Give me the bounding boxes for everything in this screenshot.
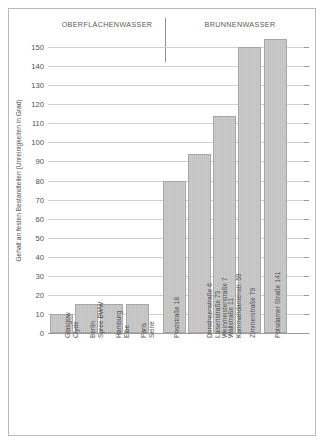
right-tick-120 — [304, 104, 309, 105]
right-tick-80 — [304, 181, 309, 182]
right-tick-40 — [304, 257, 309, 258]
y-tick-20: 20 — [36, 290, 44, 299]
right-tick-30 — [304, 276, 309, 277]
y-tick-0: 0 — [40, 329, 44, 338]
x-label-line: Hamburg — [115, 311, 123, 338]
right-tick-70 — [304, 200, 309, 201]
right-tick-110 — [304, 123, 309, 124]
right-tick-50 — [304, 238, 309, 239]
x-label-line: Spree BWW — [97, 302, 105, 338]
right-tick-130 — [304, 85, 309, 86]
chart-figure: OBERFLÄCHENWASSER BRUNNENWASSER Gehalt a… — [0, 0, 326, 446]
y-axis-title: Gehalt an festen Bestandteilen (Unreinig… — [14, 28, 24, 333]
x-label-line: Paris — [140, 321, 148, 338]
x-label-line: Luisenstraße 73 — [213, 277, 221, 338]
right-tick-150 — [304, 47, 309, 48]
y-tick-150: 150 — [31, 43, 44, 52]
x-label-line: Kommandantenstr. 59 — [235, 273, 243, 338]
x-label-poststrasse-18: Poststraße 18 — [173, 297, 181, 338]
y-tick-120: 120 — [31, 100, 44, 109]
right-tick-60 — [304, 219, 309, 220]
x-label-line: Glasgow — [64, 312, 72, 338]
y-tick-100: 100 — [31, 138, 44, 147]
x-label-potsdamer-strasse-141: Potsdamer Straße 141 — [274, 272, 282, 338]
y-tick-10: 10 — [36, 309, 44, 318]
y-tick-90: 90 — [36, 157, 44, 166]
y-tick-40: 40 — [36, 252, 44, 261]
right-tick-0 — [304, 333, 309, 334]
x-label-zimmerstrasse-79: Zimmerstraße 79 — [249, 288, 257, 338]
x-label-line: Potsdamer Straße 141 — [274, 272, 282, 338]
x-label-line: Poststraße 18 — [173, 297, 181, 338]
x-label-paris-seine: ParisSeine — [140, 321, 155, 338]
x-label-line: Elbe — [122, 311, 130, 338]
x-label-glasgow-clyde: GlasgowClyde — [64, 312, 79, 338]
right-tick-100 — [304, 142, 309, 143]
right-tick-20 — [304, 295, 309, 296]
x-label-line: Clyde — [72, 312, 80, 338]
y-tick-50: 50 — [36, 233, 44, 242]
right-tick-140 — [304, 66, 309, 67]
x-label-line: Dorotheenstraße 6 — [206, 277, 214, 338]
plot-area: 0102030405060708090100110120130140150 — [48, 28, 304, 333]
x-label-hamburg-elbe: HamburgElbe — [115, 311, 130, 338]
y-tick-130: 130 — [31, 81, 44, 90]
y-tick-80: 80 — [36, 176, 44, 185]
x-label-berlin-spree-bww: BerlinSpree BWW — [89, 302, 104, 338]
y-tick-60: 60 — [36, 214, 44, 223]
y-tick-140: 140 — [31, 62, 44, 71]
y-tick-70: 70 — [36, 195, 44, 204]
right-tick-10 — [304, 314, 309, 315]
x-label-line: Zimmerstraße 79 — [249, 288, 257, 338]
x-label-dorotheenstrasse-6: Dorotheenstraße 6Luisenstraße 73Weinmeis… — [206, 277, 229, 338]
y-tick-30: 30 — [36, 271, 44, 280]
right-tick-90 — [304, 161, 309, 162]
y-tick-110: 110 — [32, 119, 44, 128]
x-label-line: Seine — [147, 321, 155, 338]
x-label-wallstrasse-11: Wallstraße 11Kommandantenstr. 59 — [227, 273, 242, 338]
